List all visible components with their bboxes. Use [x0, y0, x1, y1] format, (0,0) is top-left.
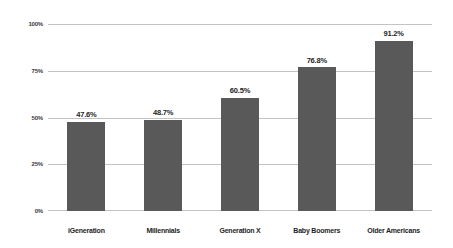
category-label: Millennials: [146, 227, 180, 234]
y-tick-label-0: 0%: [35, 208, 43, 214]
category-slot-igeneration: iGeneration: [48, 219, 125, 237]
bar-slot-millennials: 48.7%: [125, 24, 202, 211]
bar-baby-boomers[interactable]: [298, 67, 336, 211]
category-slot-millennials: Millennials: [125, 219, 202, 237]
y-tick-label-50: 50%: [32, 115, 43, 121]
bar-slot-older-americans: 91.2%: [355, 24, 432, 211]
y-axis-tick-labels: 100% 75% 50% 25% 0%: [0, 24, 43, 211]
bar-slot-generation-x: 60.5%: [202, 24, 279, 211]
category-slot-older-americans: Older Americans: [355, 219, 432, 237]
bar-value-label: 48.7%: [153, 108, 173, 117]
bar-value-label: 47.6%: [76, 110, 96, 119]
category-label: Baby Boomers: [293, 227, 340, 234]
category-label: iGeneration: [68, 227, 105, 234]
bar-millennials[interactable]: [144, 120, 182, 211]
category-slot-generation-x: Generation X: [202, 219, 279, 237]
x-axis-category-labels: iGeneration Millennials Generation X Bab…: [48, 219, 432, 241]
bars-layer: 47.6% 48.7% 60.5% 76.8% 91.2%: [48, 24, 432, 211]
bar-generation-x[interactable]: [221, 98, 259, 211]
bar-value-label: 60.5%: [230, 86, 250, 95]
y-tick-label-25: 25%: [32, 161, 43, 167]
y-tick-label-75: 75%: [32, 68, 43, 74]
category-label: Older Americans: [367, 227, 420, 234]
bar-value-label: 91.2%: [383, 29, 403, 38]
bar-chart: 100% 75% 50% 25% 0% 47.6% 48.7% 60.5% 76…: [0, 0, 453, 248]
category-label: Generation X: [219, 227, 260, 234]
category-slot-baby-boomers: Baby Boomers: [278, 219, 355, 237]
bar-slot-baby-boomers: 76.8%: [278, 24, 355, 211]
bar-slot-igeneration: 47.6%: [48, 24, 125, 211]
bar-older-americans[interactable]: [375, 41, 413, 212]
bar-igeneration[interactable]: [67, 122, 105, 211]
bar-value-label: 76.8%: [307, 56, 327, 65]
y-tick-label-100: 100%: [28, 21, 43, 27]
